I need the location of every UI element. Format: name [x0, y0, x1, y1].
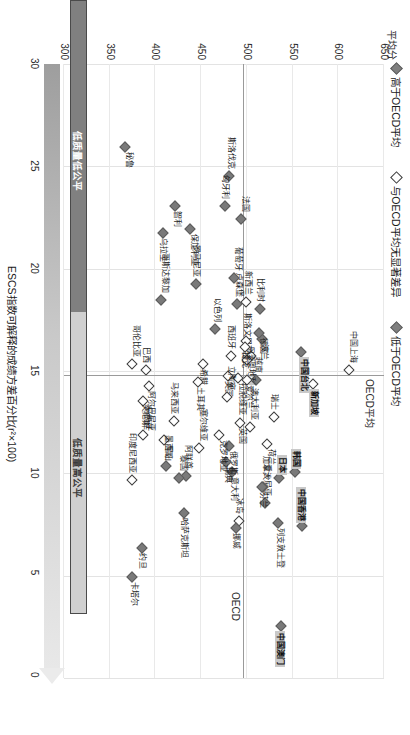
data-point[interactable]	[136, 542, 147, 553]
oecd-mean-horizontal-label: OECD	[230, 592, 241, 621]
data-point-label: 秘鲁	[125, 152, 133, 168]
legend-label: 与OECD平均无显著差异	[389, 186, 404, 296]
y-axis-tick-label: 350	[105, 34, 116, 60]
data-point-label: 西班牙	[227, 325, 235, 349]
plot-area: OECD平均OECD中国上海新加坡中国香港中国台北韩国中国澳门日本列支敦士登瑞士…	[64, 64, 384, 678]
data-point[interactable]	[141, 364, 152, 375]
x-axis-tick-label: 30	[29, 58, 40, 69]
y-axis-tick-label: 650	[379, 34, 390, 60]
data-point[interactable]	[168, 415, 179, 426]
data-point-label: 墨西哥	[164, 435, 172, 459]
data-point-label: 哥伦比亚	[133, 325, 141, 357]
x-axis-tick-label: 10	[29, 467, 40, 478]
data-point[interactable]	[127, 358, 138, 369]
data-point-label: 卡塔尔	[131, 582, 139, 606]
x-gridline	[64, 371, 384, 372]
data-point-label: 印度尼西亚	[128, 433, 136, 473]
data-point-label: 英国	[238, 428, 246, 444]
data-point-label: 比利时	[256, 278, 264, 302]
data-point[interactable]	[157, 227, 168, 238]
x-gridline	[64, 576, 384, 577]
data-point[interactable]	[226, 350, 237, 361]
data-point-label: 拉脱维亚	[238, 383, 246, 415]
data-point[interactable]	[127, 571, 138, 582]
data-point-label: 芬兰	[259, 492, 267, 508]
y-axis-tick-label: 500	[242, 34, 253, 60]
x-axis-tick-label: 25	[29, 160, 40, 171]
legend-label: 低于OECD平均	[389, 336, 404, 406]
data-point[interactable]	[214, 430, 225, 441]
data-point-label: 突尼斯	[141, 404, 149, 428]
y-gridline	[292, 64, 293, 678]
data-point[interactable]	[209, 323, 220, 334]
data-point-label: 土耳其	[196, 387, 204, 411]
data-point[interactable]	[197, 358, 208, 369]
y-axis-tick-label: 600	[333, 34, 344, 60]
data-point[interactable]	[275, 620, 286, 631]
open-diamond-icon	[390, 171, 403, 184]
data-point-label: 以色列	[213, 298, 221, 322]
data-point-label: 新西兰	[244, 271, 252, 295]
data-point[interactable]	[254, 303, 265, 314]
rotated-figure-wrapper: 高于OECD平均 与OECD平均无显著差异 低于OECD平均 高质量低公平 高质…	[0, 0, 410, 735]
filled-diamond-icon	[390, 321, 403, 334]
y-gridline	[337, 64, 338, 678]
legend-item-no-difference: 与OECD平均无显著差异	[389, 173, 404, 296]
data-point[interactable]	[138, 430, 149, 441]
data-point[interactable]	[272, 518, 283, 529]
data-point-label: 法国	[241, 196, 249, 212]
data-point[interactable]	[155, 295, 166, 306]
data-point[interactable]	[178, 508, 189, 519]
filled-diamond-icon	[390, 62, 403, 75]
y-axis-tick-label: 450	[196, 34, 207, 60]
data-point-label: 中国澳门	[275, 631, 285, 667]
data-point-label: 日本	[277, 455, 287, 475]
data-point-label: 智利	[173, 211, 181, 227]
data-point-label: 列支敦士登	[276, 528, 284, 568]
y-axis-tick-label: 400	[150, 34, 161, 60]
legend-label: 高于OECD平均	[389, 77, 404, 147]
oecd-mean-vertical-label: OECD平均	[363, 379, 378, 428]
data-point[interactable]	[161, 460, 172, 471]
data-point[interactable]	[184, 223, 195, 234]
data-point[interactable]	[261, 438, 272, 449]
data-point[interactable]	[344, 364, 355, 375]
data-point-label: 新加坡	[309, 389, 319, 417]
x-gridline	[64, 166, 384, 167]
data-point-label: 巴西	[142, 347, 150, 363]
data-point-label: 中国台北	[299, 357, 309, 393]
gradient-arrow-icon	[39, 668, 65, 684]
data-point[interactable]	[126, 475, 137, 486]
data-point-label: 瑞士	[270, 394, 278, 410]
y-gridline	[383, 64, 384, 678]
x-gridline	[64, 269, 384, 270]
y-gridline	[63, 64, 64, 678]
data-point[interactable]	[219, 201, 230, 212]
y-axis-tick-label: 300	[59, 34, 70, 60]
data-point-label: 斯洛伐克	[227, 137, 235, 169]
x-gridline	[64, 64, 384, 65]
data-point-label: 立陶宛	[227, 366, 235, 390]
data-point[interactable]	[194, 442, 205, 453]
data-point-label: 加拿大	[262, 456, 270, 480]
data-point-label: 哈萨克斯坦	[180, 518, 188, 558]
data-point[interactable]	[295, 346, 306, 357]
data-point-label: 中国上海	[349, 331, 357, 363]
data-point[interactable]	[170, 201, 181, 212]
band-label-low-quality-high-equity: 低质量高公平	[72, 438, 86, 498]
x-axis-tick-label: 20	[29, 263, 40, 274]
data-point[interactable]	[143, 381, 154, 392]
chart-legend: 高于OECD平均 与OECD平均无显著差异 低于OECD平均	[389, 64, 404, 406]
legend-item-above-oecd: 高于OECD平均	[389, 64, 404, 147]
x-axis-tick-label: 0	[29, 672, 40, 678]
y-gridline	[109, 64, 110, 678]
x-axis-title: ESCS指数可解释的成绩方差百分比(r²×100)	[5, 266, 20, 462]
data-point-label: 泰国	[179, 455, 187, 471]
data-point[interactable]	[269, 411, 280, 422]
band-label-low-quality-low-equity: 低质量低公平	[72, 131, 86, 191]
data-point-label: 塞尔维亚	[199, 409, 207, 441]
data-point[interactable]	[120, 141, 131, 152]
data-point-label: 马来西亚	[170, 382, 178, 414]
data-point-label: 捷克	[241, 352, 249, 368]
x-gridline	[64, 678, 384, 679]
